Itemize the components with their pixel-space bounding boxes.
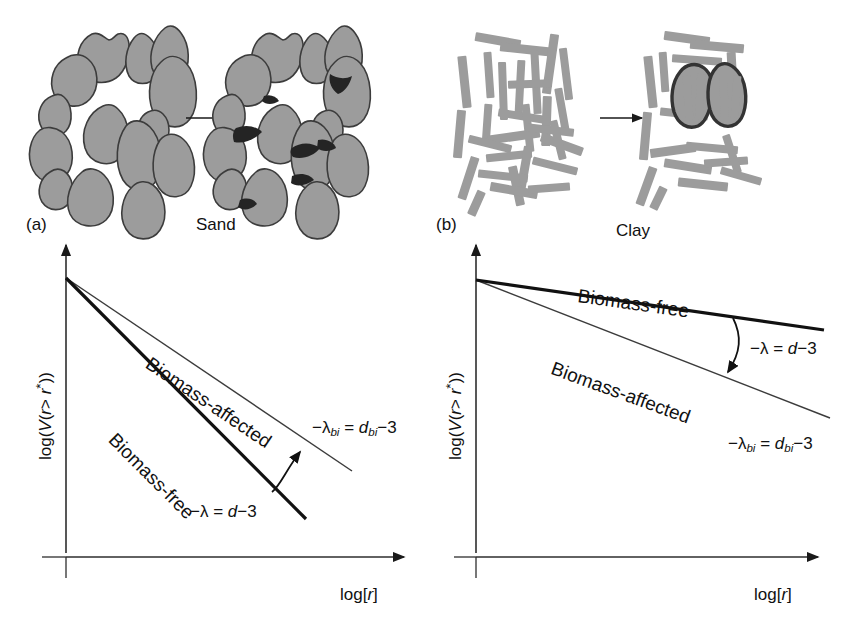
clay-cluster-before <box>453 32 584 217</box>
material-title-clay: Clay <box>616 222 650 239</box>
slope-note-biomass-affected-b: −λbi = dbi−3 <box>728 435 813 455</box>
x-axis-label-b: log[r] <box>754 586 792 603</box>
slope-note-biomass-free-b: −λ = d−3 <box>750 340 817 357</box>
slope-comparison-arrow-b <box>728 318 739 372</box>
sand-cluster-after <box>203 26 370 239</box>
panel-a-graphics <box>0 0 427 620</box>
panel-letter-a: (a) <box>26 216 47 233</box>
panel-letter-b: (b) <box>436 216 457 233</box>
sand-cluster-before <box>29 26 196 239</box>
slope-comparison-arrow-a <box>272 452 300 492</box>
x-axis-label-a: log[r] <box>340 586 378 603</box>
material-title-sand: Sand <box>196 216 236 233</box>
slope-note-biomass-affected-a: −λbi = dbi−3 <box>312 419 397 439</box>
panel-clay: (b) Clay log(V(r> r*)) log[r] Biomass-fr… <box>428 0 855 620</box>
y-axis-label-a: log(V(r> r*)) <box>34 372 54 460</box>
slope-note-biomass-free-a: −λ = d−3 <box>190 503 257 520</box>
panel-sand: (a) Sand log(V(r> r*)) log[r] Biomass-af… <box>0 0 427 620</box>
y-axis-label-b: log(V(r> r*)) <box>444 372 464 460</box>
figure-canvas: (a) Sand log(V(r> r*)) log[r] Biomass-af… <box>0 0 855 620</box>
